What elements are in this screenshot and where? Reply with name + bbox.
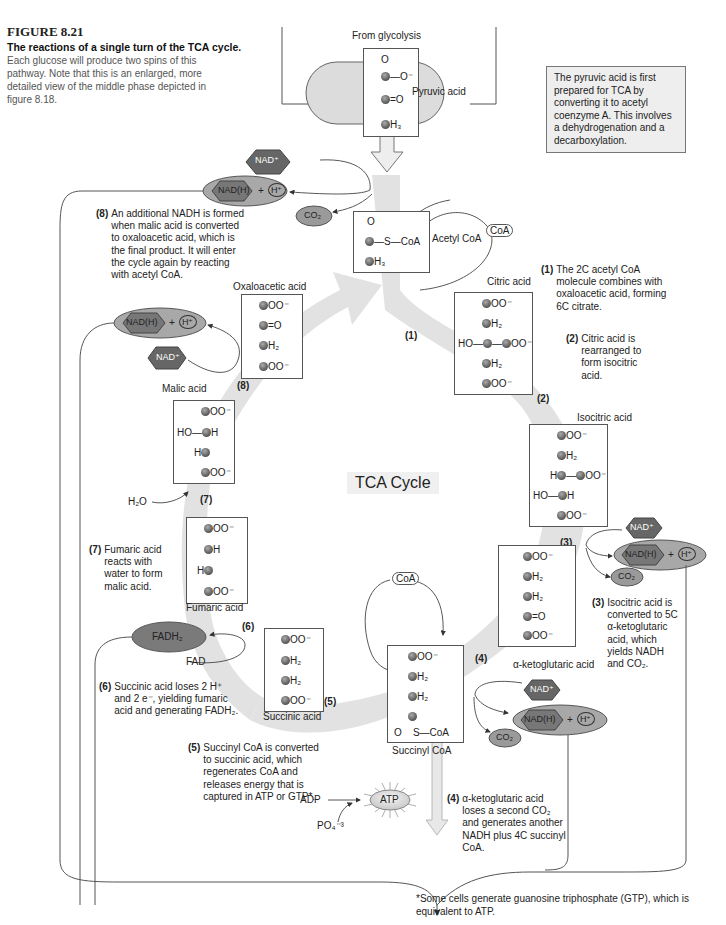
phosphate-label: PO₄⁻³ xyxy=(317,820,344,831)
carbon-atom-icon xyxy=(408,712,417,721)
carbon-atom-icon xyxy=(523,612,532,621)
carbon-atom-icon xyxy=(259,321,268,330)
succinic-acid-label: Succinic acid xyxy=(263,711,321,722)
step-8-description: (8)An additional NADH is formed when mal… xyxy=(96,208,246,281)
step-label-6: (6) xyxy=(242,621,254,632)
acetyl-coa-label: Acetyl CoA xyxy=(432,233,481,244)
molecule-fumaric-acid: OO⁻ H H OO⁻ xyxy=(186,517,248,604)
carbon-atom-icon xyxy=(281,696,290,705)
carbon-atom-icon xyxy=(259,341,268,350)
tca-cycle-title: TCA Cycle xyxy=(347,472,439,494)
step-label-2: (2) xyxy=(537,393,549,404)
fadh2-label: FADH₂ xyxy=(152,631,183,642)
figure-description: Each glucose will produce two spins of t… xyxy=(7,54,229,106)
step-3-description: (3)Isocitric acid is converted to 5C α-k… xyxy=(592,597,682,670)
step-label-7: (7) xyxy=(200,494,212,505)
carbon-atom-icon xyxy=(408,692,417,701)
carbon-atom-icon xyxy=(381,95,390,104)
h-plus-label: H⁺ xyxy=(678,547,696,561)
carbon-atom-icon xyxy=(201,468,210,477)
plus-sign: + xyxy=(258,185,264,196)
malic-acid-label: Malic acid xyxy=(162,383,206,394)
coa-badge-1: CoA xyxy=(486,224,513,237)
carbon-atom-icon xyxy=(281,656,290,665)
step-label-4: (4) xyxy=(475,653,487,664)
nad-plus-label: NAD⁺ xyxy=(156,352,180,362)
step-label-5: (5) xyxy=(324,696,336,707)
h-plus-label: H⁺ xyxy=(268,183,286,197)
carbon-atom-icon xyxy=(408,652,417,661)
carbon-atom-icon xyxy=(204,587,213,596)
carbon-atom-icon xyxy=(523,552,532,561)
adp-label: ADP xyxy=(300,794,321,805)
h2o-label: H₂O xyxy=(128,496,147,507)
molecule-oxaloacetic-acid: OO⁻ =O H₂ OO⁻ xyxy=(241,294,303,379)
molecule-acetyl-coa: O —S—CoA H₃ xyxy=(353,211,430,273)
carbon-atom-icon xyxy=(558,491,567,500)
plus-sign: + xyxy=(567,714,573,725)
carbon-atom-icon xyxy=(523,592,532,601)
step-4-description: (4)α-ketoglutaric acid loses a second CO… xyxy=(447,793,567,854)
fumaric-acid-label: Fumaric acid xyxy=(186,602,243,613)
carbon-atom-icon xyxy=(482,359,491,368)
plus-sign: + xyxy=(169,317,175,328)
plus-sign: + xyxy=(668,549,674,560)
fad-label: FAD xyxy=(186,656,205,667)
pyruvic-acid-label: Pyruvic acid xyxy=(412,86,466,97)
carbon-atom-icon xyxy=(365,257,374,266)
footnote: *Some cells generate guanosine triphosph… xyxy=(416,893,716,918)
carbon-atom-icon xyxy=(381,120,390,129)
carbon-atom-icon xyxy=(381,72,390,81)
nadh-label: NAD(H) xyxy=(524,714,556,724)
figure-number: FIGURE 8.21 xyxy=(7,24,84,40)
molecule-isocitric-acid: OO⁻ H₂ H—OO⁻ HO—H OO⁻ xyxy=(529,424,608,527)
molecule-succinyl-coa: OO⁻ H₂ H₂ O S—CoA xyxy=(387,645,464,743)
from-glycolysis-label: From glycolysis xyxy=(352,30,421,41)
nadh-label: NAD(H) xyxy=(126,317,158,327)
step-1-description: (1)The 2C acetyl CoA molecule combines w… xyxy=(541,264,671,313)
step-label-8: (8) xyxy=(237,380,249,391)
carbon-atom-icon xyxy=(482,299,491,308)
molecule-pyruvic-acid: O —O⁻ =O H₃ xyxy=(363,48,419,137)
co2-label: CO₂ xyxy=(496,732,513,742)
mol-row: O xyxy=(381,54,389,65)
step-7-description: (7)Fumaric acid reacts with water to for… xyxy=(89,544,169,593)
step-6-description: (6)Succinic acid loses 2 H⁺ and 2 e⁻, yi… xyxy=(99,681,239,718)
coa-badge-5: CoA xyxy=(392,572,419,585)
carbon-atom-icon xyxy=(259,301,268,310)
h-plus-label: H⁺ xyxy=(179,315,197,329)
carbon-atom-icon xyxy=(201,407,210,416)
carbon-atom-icon xyxy=(557,451,566,460)
carbon-atom-icon xyxy=(204,545,213,554)
alpha-ketoglutaric-acid-label: α-ketoglutaric acid xyxy=(513,659,594,670)
nad-plus-label: NAD⁺ xyxy=(530,684,554,694)
molecule-malic-acid: OO⁻ HO—H H OO⁻ xyxy=(173,400,235,484)
carbon-atom-icon xyxy=(576,471,585,480)
carbon-atom-icon xyxy=(202,428,211,437)
carbon-atom-icon xyxy=(281,676,290,685)
step-label-1: (1) xyxy=(405,330,417,341)
figure-title: The reactions of a single turn of the TC… xyxy=(7,41,247,53)
carbon-atom-icon xyxy=(204,566,213,575)
carbon-atom-icon xyxy=(281,635,290,644)
carbon-atom-icon xyxy=(482,319,491,328)
nadh-label: NAD(H) xyxy=(218,185,250,195)
isocitric-acid-label: Isocitric acid xyxy=(577,412,632,423)
carbon-atom-icon xyxy=(201,448,210,457)
carbon-atom-icon xyxy=(557,471,566,480)
carbon-atom-icon xyxy=(557,511,566,520)
carbon-atom-icon xyxy=(502,339,511,348)
molecule-succinic-acid: OO⁻ H₂ H₂ OO⁻ xyxy=(264,628,324,712)
oxaloacetic-acid-label: Oxaloacetic acid xyxy=(233,281,306,292)
pyruvic-info-box: The pyruvic acid is first prepared for T… xyxy=(546,66,686,153)
nad-plus-label: NAD⁺ xyxy=(255,155,279,165)
carbon-atom-icon xyxy=(482,379,491,388)
carbon-atom-icon xyxy=(523,572,532,581)
h-plus-label: H⁺ xyxy=(577,712,595,726)
atp-label: ATP xyxy=(380,794,399,805)
carbon-atom-icon xyxy=(408,672,417,681)
carbon-atom-icon xyxy=(523,631,532,640)
carbon-atom-icon xyxy=(365,237,374,246)
carbon-atom-icon xyxy=(204,524,213,533)
molecule-citric-acid: OO⁻ H₂ HO——OO⁻ H₂ OO⁻ xyxy=(454,292,533,395)
